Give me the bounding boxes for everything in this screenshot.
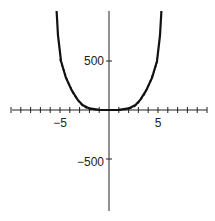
y-tick-label-neg500: −500 bbox=[77, 155, 104, 169]
x-tick-label-neg5: −5 bbox=[53, 116, 67, 130]
x-tick-label-pos5: 5 bbox=[155, 116, 162, 130]
y-tick-label-500: 500 bbox=[84, 54, 104, 68]
chart: −5 5 500 −500 bbox=[0, 0, 215, 221]
